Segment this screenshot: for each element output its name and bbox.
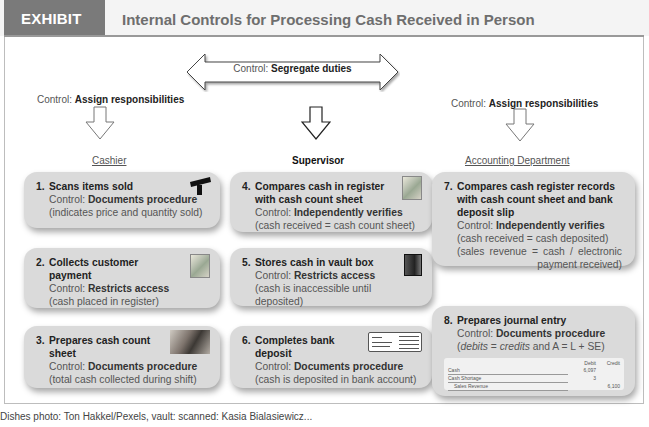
vault-icon (404, 254, 422, 276)
step-control: Control: Documents procedure (242, 360, 422, 373)
step-note: (indicates price and quantity sold) (36, 206, 210, 219)
exhibit-header: EXHIBIT 5.6 Internal Controls for Proces… (0, 0, 649, 36)
step-control: Control: Documents procedure (444, 327, 625, 340)
counting-cash-icon (170, 330, 210, 354)
journal-row: Sales Revenue 6,100 (448, 383, 620, 391)
cash-icon (402, 176, 422, 200)
step-title: Stores cash in vault box (255, 256, 373, 269)
journal-row: Cash Shortage 3 (448, 375, 620, 383)
step-note: (cash is deposited in bank account) (242, 373, 422, 386)
step-box-5: 5.Stores cash in vault box Control: Rest… (230, 248, 432, 306)
step-box-1: 1.Scans items sold Control: Documents pr… (24, 172, 220, 228)
step-box-8: 8.Prepares journal entry Control: Docume… (432, 306, 635, 396)
step-control: Control: Restricts access (242, 269, 422, 282)
step-title: Scans items sold (49, 180, 133, 193)
assign-responsibilities-left: Control: Assign responsibilities (37, 94, 184, 105)
down-arrow-icon (301, 106, 331, 140)
exhibit-title: Internal Controls for Processing Cash Re… (122, 0, 535, 36)
step-title: Compares cash register records with cash… (457, 180, 625, 219)
step-note: (cash received = cash deposited) (444, 232, 625, 245)
step-title: Collects customer payment (49, 256, 159, 282)
step-control: Control: Documents procedure (36, 193, 210, 206)
step-title: Compares cash in register with cash coun… (255, 180, 405, 206)
step-title: Prepares journal entry (457, 314, 566, 327)
journal-entry: Debit Credit Cash 6,097 Cash Shortage 3 … (444, 358, 624, 390)
column-header-supervisor: Supervisor (292, 155, 344, 166)
step-note: (debits = credits and A = L + SE) (444, 340, 625, 353)
column-header-cashier: Cashier (92, 155, 126, 166)
step-note: (cash placed in register) (36, 295, 210, 308)
step-title: Prepares cash count sheet (49, 334, 159, 360)
down-arrow-icon (85, 106, 115, 140)
step-note: (total cash collected during shift) (36, 373, 210, 386)
step-control: Control: Independently verifies (242, 206, 422, 219)
step-box-7: 7.Compares cash register records with ca… (432, 172, 635, 266)
step-box-3: 3.Prepares cash count sheet Control: Doc… (24, 326, 220, 388)
segregate-duties-label: Control: Segregate duties (185, 63, 400, 74)
column-header-accounting: Accounting Department (465, 155, 570, 166)
journal-row: Cash 6,097 (448, 367, 620, 375)
step-control: Control: Documents procedure (36, 360, 210, 373)
cash-icon (190, 254, 210, 278)
step-note: (cash received = cash count sheet) (242, 219, 422, 232)
step-control: Control: Restricts access (36, 282, 210, 295)
step-note-2: (sales revenue = cash / electronic payme… (444, 245, 622, 271)
exhibit-label: EXHIBIT 5.6 (4, 0, 105, 36)
deposit-slip-icon (368, 332, 422, 352)
step-control: Control: Independently verifies (444, 219, 625, 232)
step-box-4: 4.Compares cash in register with cash co… (230, 172, 432, 232)
down-arrow-icon (505, 108, 535, 142)
step-box-2: 2.Collects customer payment Control: Res… (24, 248, 220, 308)
photo-credit: Dishes photo: Ton Hakkel/Pexels, vault: … (0, 411, 400, 427)
barcode-scanner-icon (188, 176, 212, 196)
step-box-6: 6.Completes bank deposit Control: Docume… (230, 326, 432, 388)
journal-header: Debit Credit (448, 360, 620, 367)
step-title: Completes bank deposit (255, 334, 345, 360)
step-note: (cash is inaccessible until deposited) (242, 282, 422, 308)
